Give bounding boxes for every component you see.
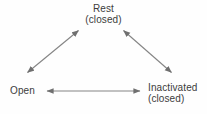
node-inactivated-title: Inactivated	[148, 82, 197, 93]
diagram-canvas: Rest (closed) Open Inactivated (closed)	[0, 0, 207, 114]
node-label-open: Open	[10, 85, 35, 96]
node-inactivated-subtitle: (closed)	[148, 93, 197, 104]
edge-rest-open	[28, 31, 79, 73]
edge-rest-inactivated	[124, 31, 172, 73]
node-rest-title: Rest	[93, 3, 114, 14]
node-rest-subtitle: (closed)	[0, 14, 207, 25]
node-label-rest: Rest (closed)	[0, 3, 207, 25]
node-open-title: Open	[10, 85, 35, 96]
node-label-inactivated: Inactivated (closed)	[148, 82, 197, 104]
